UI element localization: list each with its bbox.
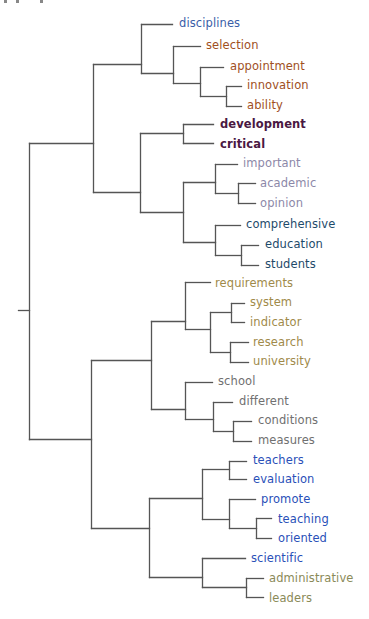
leaf-label-comprehensive: comprehensive — [246, 217, 335, 231]
leaf-label-critical: critical — [220, 137, 265, 151]
leaf-label-ability: ability — [247, 98, 283, 112]
leaf-label-requirements: requirements — [215, 276, 293, 290]
leaf-label-evaluation: evaluation — [253, 472, 315, 486]
leaf-label-promote: promote — [261, 492, 310, 506]
leaf-label-innovation: innovation — [247, 78, 309, 92]
leaf-label-indicator: indicator — [250, 315, 302, 329]
leaf-label-different: different — [239, 394, 289, 408]
leaf-label-scientific: scientific — [251, 551, 303, 565]
leaf-label-development: development — [220, 117, 306, 131]
leaf-label-administrative: administrative — [269, 571, 354, 585]
dendrogram — [0, 0, 369, 619]
leaf-label-teachers: teachers — [253, 453, 304, 467]
leaf-label-important: important — [243, 156, 301, 170]
leaf-label-appointment: appointment — [230, 59, 305, 73]
leaf-label-oriented: oriented — [278, 531, 327, 545]
leaf-label-university: university — [253, 354, 311, 368]
leaf-label-measures: measures — [258, 433, 315, 447]
leaf-label-system: system — [250, 295, 292, 309]
leaf-label-education: education — [265, 237, 323, 251]
leaf-label-students: students — [265, 257, 316, 271]
leaf-label-opinion: opinion — [260, 196, 303, 210]
dendrogram-branches — [19, 25, 272, 598]
leaf-label-research: research — [253, 335, 304, 349]
leaf-label-school: school — [218, 374, 255, 388]
leaf-label-teaching: teaching — [278, 512, 329, 526]
leaf-label-leaders: leaders — [269, 591, 312, 605]
leaf-label-selection: selection — [206, 38, 259, 52]
leaf-label-academic: academic — [260, 176, 316, 190]
leaf-label-disciplines: disciplines — [179, 16, 240, 30]
leaf-label-conditions: conditions — [258, 413, 318, 427]
